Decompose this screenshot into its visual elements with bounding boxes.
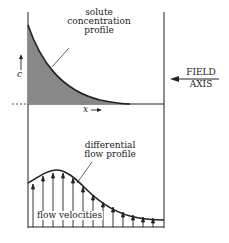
field-label-line1: FIELD — [180, 68, 222, 77]
solute-label-line3: profile — [62, 26, 136, 35]
c-axis-arrowhead — [19, 54, 23, 59]
diagram-canvas — [0, 0, 229, 243]
solute-leader-line — [52, 48, 69, 67]
diff-leader-line — [77, 162, 92, 183]
x-axis-label: x — [83, 105, 88, 114]
field-axis-label: FIELD AXIS — [180, 68, 222, 89]
solute-label: solute concentration profile — [62, 8, 136, 35]
diff-label-line2: flow profile — [80, 150, 140, 159]
field-axis-arrowhead — [170, 76, 179, 82]
x-axis-arrowhead — [97, 108, 102, 112]
field-label-line2: AXIS — [180, 80, 222, 89]
c-axis-label: c — [17, 70, 22, 79]
differential-flow-label: differential flow profile — [80, 141, 140, 159]
flow-velocities-label: flow velocities — [36, 211, 103, 220]
